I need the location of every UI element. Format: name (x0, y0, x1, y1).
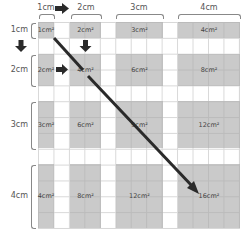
down-arrow-icon (15, 40, 27, 52)
arrows-overlay (0, 0, 243, 237)
down-arrow-icon (80, 40, 92, 52)
right-arrow-icon (55, 3, 69, 14)
right-arrow-icon (56, 64, 68, 75)
diagonal-arrow-icon (54, 38, 199, 194)
